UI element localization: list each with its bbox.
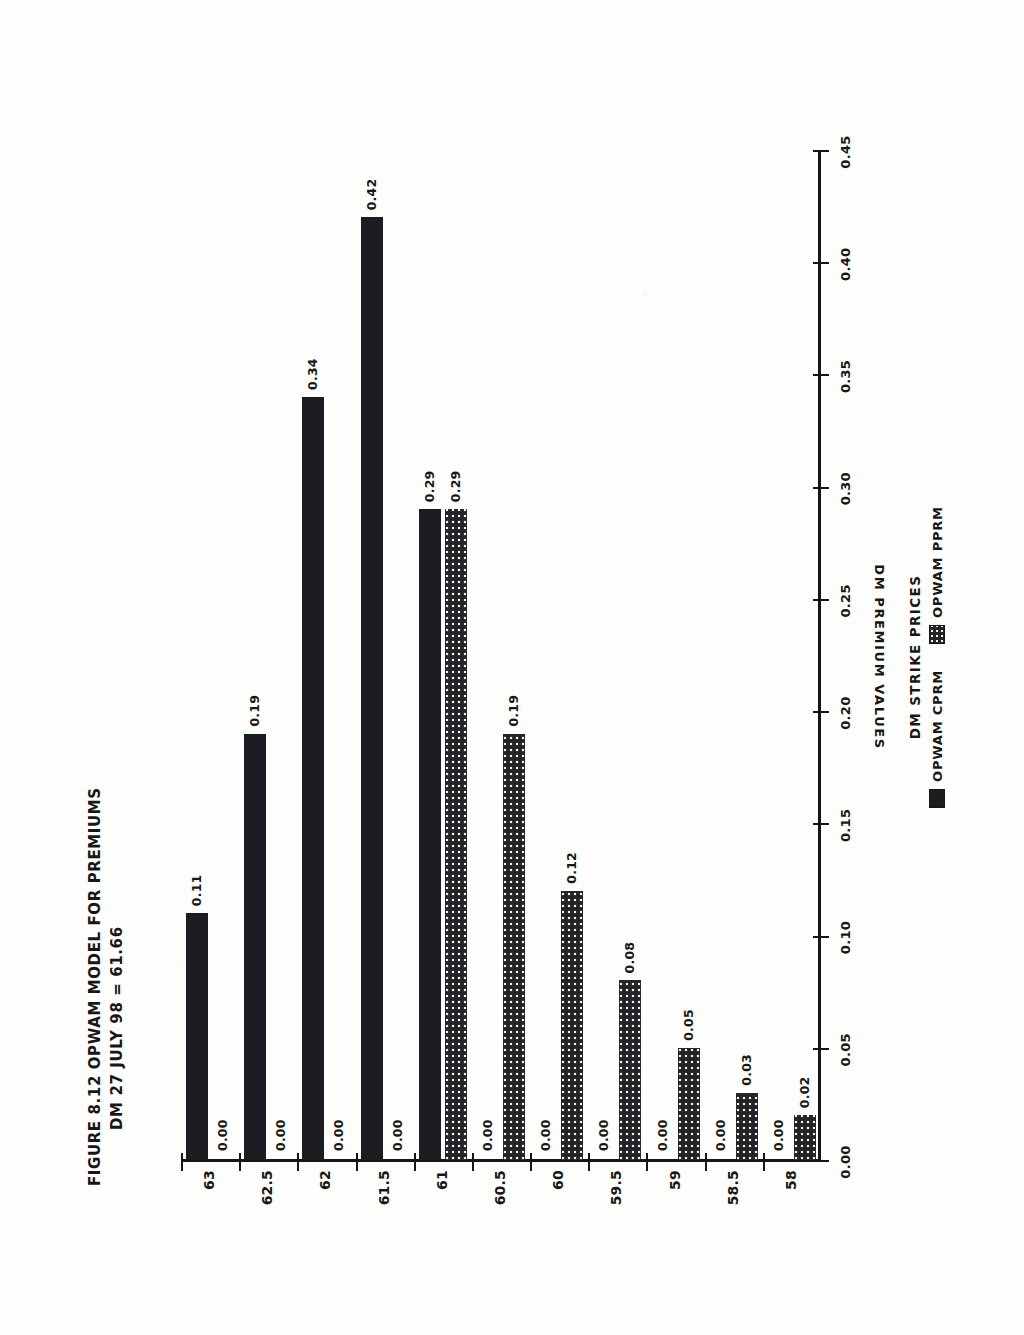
legend-entry: OPWAM PPRM	[929, 506, 945, 644]
bar-cprm	[186, 913, 208, 1160]
value-tick-label: 0.05	[838, 1020, 853, 1078]
category-tick	[588, 1153, 590, 1171]
bar-value-label: 0.00	[270, 1119, 292, 1151]
bar-value-label: 0.19	[503, 694, 525, 726]
value-tick	[813, 486, 829, 488]
legend-swatch-icon	[929, 625, 945, 644]
bar-value-label: 0.00	[710, 1119, 732, 1151]
legend-entry: OPWAM CPRM	[929, 670, 945, 808]
bar-value-label: 0.05	[678, 1009, 700, 1041]
category-tick-label: 63	[201, 1170, 217, 1220]
bar-cprm	[652, 1158, 674, 1160]
category-tick-label: 58.5	[725, 1170, 741, 1220]
value-tick-label: 0.15	[838, 796, 853, 854]
bar-value-label: 0.00	[593, 1119, 615, 1151]
category-tick-label: 59.5	[608, 1170, 624, 1220]
value-tick-label: 0.10	[838, 908, 853, 966]
category-tick	[763, 1153, 765, 1171]
bar-value-label: 0.29	[419, 470, 441, 502]
category-tick	[472, 1153, 474, 1171]
bar-value-label: 0.02	[794, 1076, 816, 1108]
category-tick-label: 61	[434, 1170, 450, 1220]
value-axis-line	[818, 152, 821, 1162]
bar-cprm	[419, 509, 441, 1160]
bar-value-label: 0.12	[561, 852, 583, 884]
category-tick	[646, 1153, 648, 1171]
category-tick	[181, 1153, 183, 1171]
bar-value-label: 0.19	[244, 694, 266, 726]
value-tick	[813, 711, 829, 713]
category-tick-label: 60	[550, 1170, 566, 1220]
bar-pprm	[503, 733, 525, 1159]
bar-cprm	[477, 1158, 499, 1160]
value-tick	[813, 935, 829, 937]
legend: DM STRIKE PRICES OPWAM CPRMOPWAM PPRM	[907, 152, 945, 1162]
value-axis-title: DM PREMIUM VALUES	[872, 152, 887, 1162]
bar-pprm	[736, 1092, 758, 1159]
value-tick	[813, 262, 829, 264]
bar-value-label: 0.00	[212, 1119, 234, 1151]
value-tick	[813, 823, 829, 825]
bar-pprm	[328, 1158, 350, 1160]
value-tick	[813, 1047, 829, 1049]
value-tick-label: 0.25	[838, 571, 853, 629]
bar-value-label: 0.00	[477, 1119, 499, 1151]
bar-cprm	[593, 1158, 615, 1160]
category-tick	[414, 1153, 416, 1171]
bar-value-label: 0.42	[361, 178, 383, 210]
value-tick-label: 0.20	[838, 684, 853, 742]
bar-value-label: 0.08	[619, 941, 641, 973]
figure-title-line-1: FIGURE 8.12 OPWAM MODEL FOR PREMIUMS	[85, 787, 107, 1186]
bar-cprm	[710, 1158, 732, 1160]
plot-area: 5858.55959.56060.56161.56262.563 0.000.0…	[181, 152, 821, 1162]
category-tick-label: 60.5	[492, 1170, 508, 1220]
value-tick-label: 0.45	[838, 123, 853, 181]
bar-pprm	[619, 980, 641, 1160]
value-tick	[813, 374, 829, 376]
bar-value-label: 0.03	[736, 1054, 758, 1086]
scanned-page: FIGURE 8.12 OPWAM MODEL FOR PREMIUMS DM …	[0, 0, 1024, 1335]
legend-label: OPWAM CPRM	[930, 670, 945, 782]
bar-cprm	[302, 396, 324, 1159]
bar-pprm	[445, 509, 467, 1160]
bar-value-label: 0.00	[652, 1119, 674, 1151]
bar-pprm	[212, 1158, 234, 1160]
category-tick	[705, 1153, 707, 1171]
bar-cprm	[768, 1158, 790, 1160]
category-tick	[530, 1153, 532, 1171]
bar-pprm	[678, 1047, 700, 1159]
figure-title: FIGURE 8.12 OPWAM MODEL FOR PREMIUMS DM …	[85, 787, 129, 1186]
value-tick-label: 0.35	[838, 347, 853, 405]
category-tick-label: 59	[667, 1170, 683, 1220]
chart-figure: FIGURE 8.12 OPWAM MODEL FOR PREMIUMS DM …	[77, 78, 947, 1258]
legend-swatch-icon	[929, 788, 945, 807]
category-tick-label: 61.5	[376, 1170, 392, 1220]
bar-cprm	[361, 217, 383, 1160]
value-tick	[813, 150, 829, 152]
bar-pprm	[794, 1115, 816, 1160]
figure-title-line-2: DM 27 JULY 98 = 61.66	[107, 787, 129, 1186]
bar-pprm	[270, 1158, 292, 1160]
category-tick	[239, 1153, 241, 1171]
bar-value-label: 0.00	[768, 1119, 790, 1151]
category-tick-label: 62.5	[259, 1170, 275, 1220]
bar-value-label: 0.34	[302, 358, 324, 390]
value-tick-label: 0.30	[838, 459, 853, 517]
bar-value-label: 0.00	[535, 1119, 557, 1151]
bar-value-label: 0.11	[186, 874, 208, 906]
bar-cprm	[535, 1158, 557, 1160]
category-tick-label: 58	[783, 1170, 799, 1220]
bar-value-label: 0.00	[387, 1119, 409, 1151]
category-tick	[356, 1153, 358, 1171]
legend-title: DM STRIKE PRICES	[907, 574, 923, 739]
bar-pprm	[561, 890, 583, 1159]
value-tick-label: 0.40	[838, 235, 853, 293]
value-tick	[813, 598, 829, 600]
legend-label: OPWAM PPRM	[930, 506, 945, 618]
category-tick	[297, 1153, 299, 1171]
bar-pprm	[387, 1158, 409, 1160]
bar-value-label: 0.00	[328, 1119, 350, 1151]
bar-value-label: 0.29	[445, 470, 467, 502]
value-tick-label: 0.00	[838, 1133, 853, 1191]
legend-entries: OPWAM CPRMOPWAM PPRM	[929, 506, 945, 808]
